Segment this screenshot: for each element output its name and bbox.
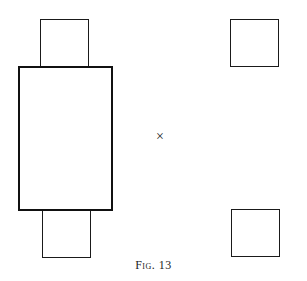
figure-caption: Fig. 13: [0, 258, 307, 273]
center-cross-mark: ×: [153, 130, 167, 144]
small-square-bottom-right: [231, 209, 280, 257]
small-square-top-left: [40, 19, 89, 68]
small-square-top-right: [230, 19, 279, 67]
figure-13: × Fig. 13: [0, 0, 307, 281]
small-square-bottom-left: [42, 209, 91, 258]
large-rectangle: [18, 66, 113, 211]
